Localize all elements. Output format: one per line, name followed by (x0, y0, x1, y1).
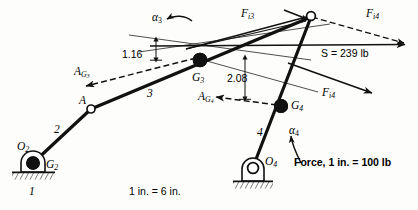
label-force-fi4-upper: Fi4 (366, 8, 379, 21)
link-4-rocker (253, 17, 311, 167)
label-link-3: 3 (147, 88, 153, 100)
mass-center-g3-symbol (193, 53, 206, 66)
label-acceleration-ag3: AG3 (74, 66, 90, 79)
joint-a (87, 105, 95, 113)
label-mass-center-g4: G4 (291, 100, 303, 113)
joint-b (307, 12, 316, 21)
label-force-fi3: Fi3 (241, 8, 254, 21)
mass-center-g4-symbol (275, 100, 288, 113)
alpha3-arc-arrow (167, 16, 192, 21)
label-mass-center-g2: G2 (46, 159, 58, 172)
label-force-scale: Force, 1 in. = 100 lb (294, 157, 391, 168)
label-joint-o2: O2 (17, 141, 29, 154)
dimension-1-16 (150, 37, 162, 63)
label-joint-o4: O4 (265, 156, 277, 169)
label-acceleration-ag4: AG4 (198, 91, 214, 104)
label-dimension-2-08: 2.08 (227, 73, 247, 84)
label-mass-center-g3: G3 (192, 72, 204, 85)
label-alpha4: α4 (289, 125, 299, 138)
label-length-scale: 1 in. = 6 in. (129, 186, 181, 197)
figure-canvas: α3 Fi3 Fi4 S = 239 lb 1.16 2.08 AG3 AG4 … (0, 0, 418, 210)
label-alpha3: α3 (152, 12, 162, 25)
joint-b-incoming-arrow (284, 10, 307, 19)
label-link-2: 2 (54, 124, 60, 136)
label-link-4: 4 (257, 127, 263, 139)
mechanism-drawing (0, 0, 418, 210)
label-joint-a: A (79, 95, 86, 107)
label-link-1: 1 (29, 186, 35, 198)
force-fi4-upper-arrow (312, 17, 404, 43)
label-dimension-1-16: 1.16 (122, 49, 142, 60)
label-force-fi4-lower: Fi4 (322, 87, 335, 100)
mass-center-g2-symbol (27, 157, 39, 169)
label-shaking-force: S = 239 lb (321, 48, 369, 59)
